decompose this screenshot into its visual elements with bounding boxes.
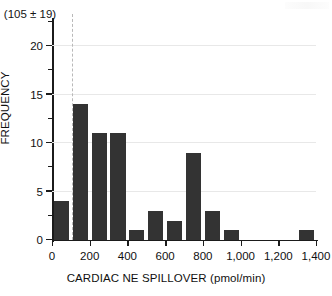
histogram-bar [299, 230, 314, 240]
y-tick-label-0: 0 [37, 234, 43, 246]
x-axis-title: CARDIAC NE SPILLOVER (pmol/min) [0, 272, 332, 284]
y-tick-label-10: 10 [30, 137, 43, 149]
y-tick-label-5: 5 [37, 186, 43, 198]
histogram-bar [224, 230, 239, 240]
x-tick-1000 [241, 240, 242, 246]
histogram-bar [54, 201, 69, 240]
histogram-bar [186, 153, 201, 240]
x-tick-label-400: 400 [118, 250, 137, 262]
x-tick-label-200: 200 [80, 250, 99, 262]
y-minor-tick-17.5 [48, 69, 52, 70]
x-tick-200 [90, 240, 91, 246]
histogram-bar [148, 211, 163, 240]
x-tick-label-800: 800 [193, 250, 212, 262]
x-tick-label-0: 0 [49, 250, 55, 262]
histogram-bar [167, 221, 182, 240]
y-tick-20 [46, 45, 52, 46]
y-minor-tick-12.5 [48, 118, 52, 119]
gridline-y-15 [52, 94, 316, 95]
y-axis-title: FREQUENCY [0, 71, 11, 144]
x-tick-800 [203, 240, 204, 246]
x-tick-1400 [316, 240, 317, 246]
x-tick-label-1400: 1,400 [302, 250, 331, 262]
gridline-y-20 [52, 45, 316, 46]
y-minor-tick-22.5 [48, 21, 52, 22]
scan-artifact [285, 2, 329, 9]
x-tick-400 [127, 240, 128, 246]
y-tick-15 [46, 93, 52, 94]
plot-area: (105 ± 19) 05101520 02004006008001,0001,… [52, 22, 316, 240]
x-tick-600 [165, 240, 166, 246]
y-tick-10 [46, 142, 52, 143]
x-tick-label-600: 600 [156, 250, 175, 262]
x-tick-1200 [278, 240, 279, 246]
y-tick-label-20: 20 [30, 40, 43, 52]
mean-reference-line [72, 14, 73, 240]
x-tick-0 [52, 240, 53, 246]
y-tick-5 [46, 190, 52, 191]
histogram-bar [110, 133, 125, 240]
y-minor-tick-7.5 [48, 166, 52, 167]
histogram-bar [205, 211, 220, 240]
x-tick-label-1000: 1,000 [226, 250, 255, 262]
histogram-bar [92, 133, 107, 240]
histogram-bar [129, 230, 144, 240]
y-tick-label-15: 15 [30, 89, 43, 101]
x-tick-label-1200: 1,200 [264, 250, 293, 262]
histogram-figure: (105 ± 19) 05101520 02004006008001,0001,… [0, 0, 332, 296]
y-minor-tick-2.5 [48, 215, 52, 216]
histogram-bar [73, 104, 88, 240]
mean-sd-annotation: (105 ± 19) [4, 8, 56, 20]
